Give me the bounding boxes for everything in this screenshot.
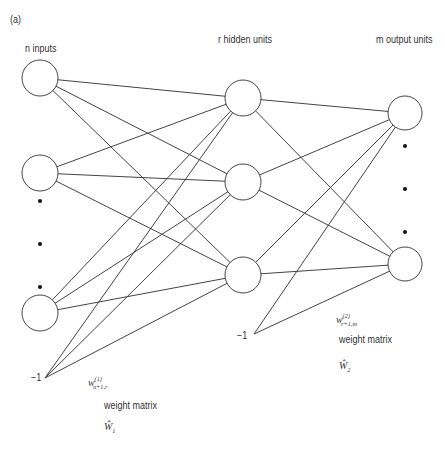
weight1-matrix: Ŵ1	[104, 420, 115, 435]
input-layer-label: n inputs	[25, 43, 57, 54]
output-node-m	[388, 247, 422, 281]
weight1-caption: weight matrix	[104, 400, 157, 411]
input-node-n	[22, 295, 58, 331]
weight1-symbol: w(1)n+1,r	[88, 375, 108, 391]
hidden-node-1	[225, 80, 261, 116]
weight2-matrix: Ŵ2	[339, 359, 350, 374]
hidden-node-2	[225, 164, 261, 200]
connections	[40, 78, 405, 378]
input-node-1	[22, 60, 58, 96]
weight2-symbol: w(2)r+1,m	[336, 312, 357, 328]
output-node-1	[388, 96, 422, 130]
bias1-label: −1	[31, 372, 41, 383]
hidden-layer-label: r hidden units	[218, 34, 272, 45]
panel-label: (a)	[10, 14, 21, 25]
input-node-2	[22, 155, 58, 191]
hidden-node-r	[225, 257, 261, 293]
bias2-label: −1	[237, 330, 247, 341]
network-diagram	[0, 0, 445, 449]
output-layer-label: m output units	[376, 34, 433, 45]
weight2-caption: weight matrix	[339, 334, 392, 345]
